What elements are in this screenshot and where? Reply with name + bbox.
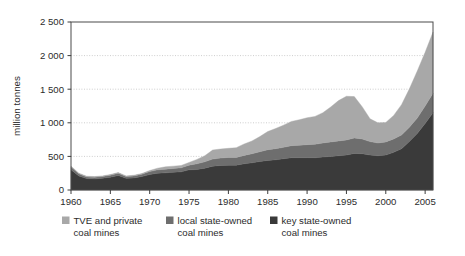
y-tick-label-2500: 2 500 [40, 16, 64, 27]
x-tick-label-1980: 1980 [218, 196, 239, 207]
y-axis-title: million tonnes [11, 76, 22, 136]
x-tick-label-1995: 1995 [336, 196, 357, 207]
legend-label-2-line2: coal mines [282, 227, 328, 238]
stacked-area-chart: 2 5002 0001 5001 0005000 196019651970197… [0, 0, 465, 256]
x-tick-label-1965: 1965 [100, 196, 121, 207]
x-tick-label-1985: 1985 [257, 196, 278, 207]
x-tick-label-2005: 2005 [414, 196, 435, 207]
x-tick-label-1970: 1970 [139, 196, 160, 207]
x-tick-label-2000: 2000 [375, 196, 396, 207]
y-tick-label-500: 500 [48, 151, 64, 162]
chart-legend: TVE and privatecoal mineslocal state-own… [62, 215, 351, 238]
y-tick-label-1000: 1 000 [40, 117, 64, 128]
x-tick-label-1960: 1960 [60, 196, 81, 207]
legend-label-0-line1: TVE and private [74, 215, 143, 226]
legend-label-0-line2: coal mines [74, 227, 120, 238]
legend-swatch-2 [270, 217, 278, 225]
x-tick-label-1990: 1990 [296, 196, 317, 207]
legend-label-1-line2: coal mines [178, 227, 224, 238]
y-tick-label-2000: 2 000 [40, 50, 64, 61]
legend-label-2-line1: key state-owned [282, 215, 352, 226]
legend-label-1-line1: local state-owned [178, 215, 253, 226]
x-tick-label-1975: 1975 [178, 196, 199, 207]
y-tick-label-1500: 1 500 [40, 84, 64, 95]
legend-swatch-0 [62, 217, 70, 225]
y-tick-label-0: 0 [59, 184, 64, 195]
legend-swatch-1 [166, 217, 174, 225]
